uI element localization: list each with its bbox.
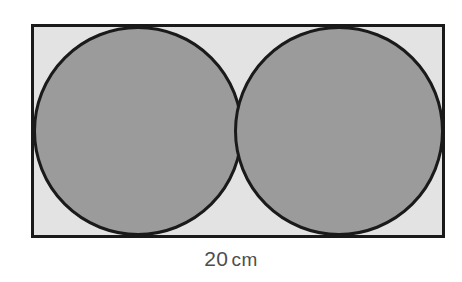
right-circle — [236, 28, 443, 235]
geometry-figure: 20cm — [0, 0, 462, 282]
left-circle — [35, 28, 242, 235]
figure-canvas — [0, 0, 462, 282]
dimension-label: 20cm — [0, 246, 462, 273]
dimension-value: 20 — [204, 247, 228, 270]
dimension-unit: cm — [232, 249, 258, 270]
